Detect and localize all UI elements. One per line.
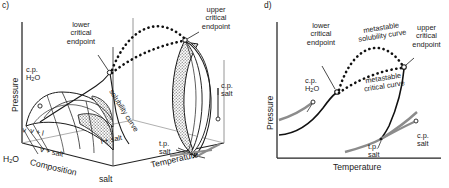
- panel-c-water-corner-label: H2O: [3, 155, 19, 165]
- panel-c-salt-rich-surfaces: [170, 32, 220, 158]
- figure-canvas: c) d) Pressure lower critical endpoint u…: [0, 0, 449, 188]
- panel-c-cp-water-label: c.p.H2O: [26, 66, 40, 83]
- panel-d-curves: [279, 48, 418, 152]
- panel-c-tp-salt-label: t.p.salt: [159, 140, 171, 157]
- panel-d-cp-water-label: c.p.H2O: [305, 77, 319, 94]
- panel-d-cp-salt-label: c.p.salt: [417, 132, 429, 149]
- panel-c-salt-corner-label: salt: [99, 175, 112, 183]
- panel-d-tp-salt-label: t.p.salt: [368, 143, 380, 160]
- panel-d-id: d): [264, 1, 271, 9]
- panel-d-temperature-axis-label: Temperature: [333, 163, 381, 171]
- panel-c-id: c): [2, 1, 9, 9]
- panel-c-upper-critical-endpoint-label: upper critical endpoint: [191, 6, 241, 31]
- panel-d-lower-critical-endpoint-label: lower critical endpoint: [292, 22, 350, 47]
- panel-c-pressure-axis-label: Pressure: [11, 78, 19, 112]
- panel-c-metastable-dotted-curves: [112, 26, 184, 73]
- panel-c-lower-critical-endpoint-label: lower critical endpoint: [51, 21, 111, 46]
- panel-d-pressure-axis-label: Pressure: [266, 96, 274, 130]
- panel-c-cp-salt-label: c.p.salt: [221, 82, 233, 99]
